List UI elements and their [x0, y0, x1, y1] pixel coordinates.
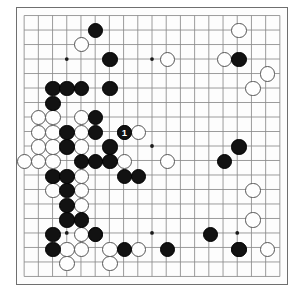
black-stone — [88, 110, 103, 125]
black-stone — [131, 169, 146, 184]
white-stone — [131, 242, 146, 257]
black-stone — [117, 242, 132, 257]
white-stone — [31, 125, 46, 140]
white-stone — [74, 242, 89, 257]
black-stone — [160, 242, 175, 257]
black-stone — [59, 139, 74, 154]
move-number-label: 1 — [118, 126, 131, 139]
black-stone — [102, 139, 117, 154]
black-stone — [45, 169, 60, 184]
white-stone — [231, 23, 246, 38]
white-stone — [217, 52, 232, 67]
black-stone — [102, 52, 117, 67]
marked-move-stone: 1 — [117, 125, 132, 140]
black-stone — [74, 81, 89, 96]
black-stone — [59, 198, 74, 213]
black-stone — [88, 23, 103, 38]
white-stone — [59, 256, 74, 271]
black-stone — [74, 212, 89, 227]
black-stone — [203, 227, 218, 242]
go-board[interactable]: 11 — [16, 7, 288, 285]
black-stone — [74, 154, 89, 169]
white-stone — [160, 52, 175, 67]
black-stone — [88, 154, 103, 169]
black-stone — [45, 96, 60, 111]
white-stone — [45, 154, 60, 169]
white-stone — [74, 125, 89, 140]
white-stone — [17, 154, 32, 169]
black-stone — [231, 52, 246, 67]
white-stone — [74, 169, 89, 184]
black-stone — [59, 169, 74, 184]
white-stone — [31, 154, 46, 169]
white-stone — [260, 242, 275, 257]
go-diagram-root: 11 — [0, 0, 305, 308]
white-stone — [260, 66, 275, 81]
black-stone — [117, 169, 132, 184]
black-stone — [231, 139, 246, 154]
white-stone — [59, 242, 74, 257]
white-stone — [45, 183, 60, 198]
white-stone — [74, 198, 89, 213]
black-stone — [45, 81, 60, 96]
white-stone — [117, 154, 132, 169]
white-stone — [74, 227, 89, 242]
white-stone — [74, 139, 89, 154]
black-stone — [88, 227, 103, 242]
white-stone — [245, 183, 260, 198]
black-stone — [59, 125, 74, 140]
white-stone — [102, 242, 117, 257]
black-stone — [45, 242, 60, 257]
white-stone — [74, 37, 89, 52]
white-stone — [102, 256, 117, 271]
white-stone — [245, 212, 260, 227]
white-stone — [245, 81, 260, 96]
black-stone — [59, 212, 74, 227]
white-stone — [74, 110, 89, 125]
black-stone — [88, 125, 103, 140]
black-stone — [102, 154, 117, 169]
white-stone — [31, 110, 46, 125]
white-stone — [45, 110, 60, 125]
white-stone — [45, 125, 60, 140]
white-stone — [160, 154, 175, 169]
black-stone — [102, 81, 117, 96]
white-stone — [45, 139, 60, 154]
black-stone — [231, 242, 246, 257]
white-stone — [74, 183, 89, 198]
black-stone — [59, 81, 74, 96]
black-stone — [217, 154, 232, 169]
black-stone — [59, 183, 74, 198]
white-stone — [131, 125, 146, 140]
stones-layer: 11 — [17, 8, 287, 284]
black-stone — [45, 227, 60, 242]
white-stone — [31, 139, 46, 154]
